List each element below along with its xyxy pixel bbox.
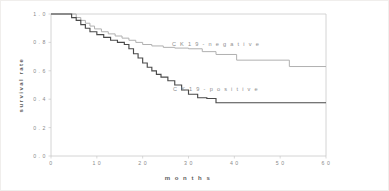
- y-axis-title: survival rate: [18, 58, 24, 113]
- x-axis-ticks: 01 02 03 04 05 06 0: [49, 156, 330, 166]
- series-label-ck19-positive: C K 1 9 - p o s i t i v e: [173, 86, 259, 92]
- plot-frame: [51, 14, 326, 156]
- series-annotations: C K 1 9 - n e g a t i v eC K 1 9 - p o s…: [172, 41, 260, 92]
- y-axis-ticks: 1 . 00 . 80 . 60 . 40 . 20 . 0: [33, 11, 51, 159]
- x-tick-label: 5 0: [276, 160, 285, 166]
- x-tick-label: 0: [49, 160, 52, 166]
- y-tick-label: 0 . 4: [33, 96, 46, 102]
- x-tick-label: 2 0: [138, 160, 147, 166]
- x-tick-label: 1 0: [92, 160, 101, 166]
- y-tick-label: 0 . 0: [33, 153, 46, 159]
- y-tick-label: 1 . 0: [33, 11, 46, 17]
- x-tick-label: 6 0: [322, 160, 331, 166]
- y-tick-label: 0 . 6: [33, 68, 46, 74]
- x-axis-title: m o n t h s: [165, 175, 212, 181]
- x-tick-label: 3 0: [184, 160, 193, 166]
- survival-chart-figure: 1 . 00 . 80 . 60 . 40 . 20 . 0 01 02 03 …: [0, 0, 389, 191]
- y-tick-label: 0 . 8: [33, 39, 46, 45]
- chart-canvas: 1 . 00 . 80 . 60 . 40 . 20 . 0 01 02 03 …: [1, 1, 389, 191]
- series-label-ck19-negative: C K 1 9 - n e g a t i v e: [172, 41, 260, 47]
- y-tick-label: 0 . 2: [33, 125, 46, 131]
- x-tick-label: 4 0: [230, 160, 239, 166]
